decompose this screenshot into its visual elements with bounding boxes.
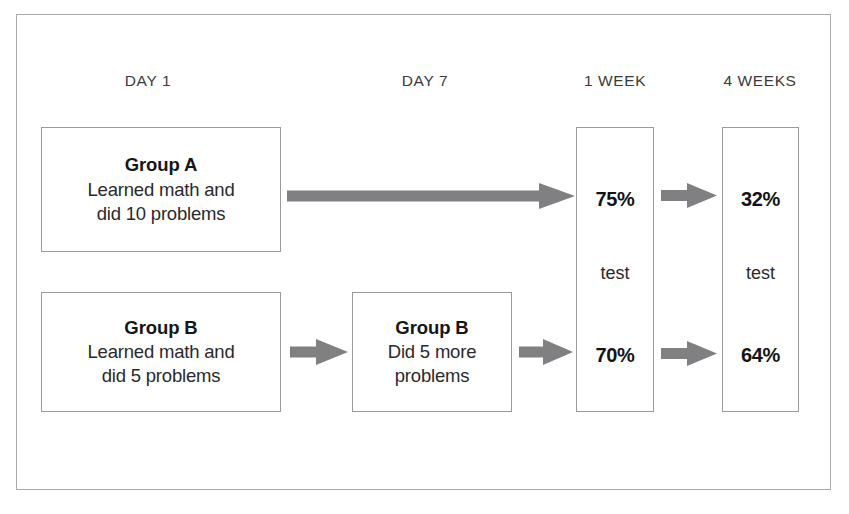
node-group-a-day1: Group A Learned math and did 10 problems (41, 127, 281, 252)
node-group-a-day1-line-2: did 10 problems (97, 202, 226, 226)
node-group-a-day1-title: Group A (125, 153, 198, 177)
test-4-weeks-bottom-value: 64% (723, 344, 798, 367)
test-1-week-label: test (577, 263, 653, 284)
arrow-group-b-day7-to-1week (519, 338, 573, 366)
arrow-group-b-day1-to-day7 (290, 338, 348, 366)
column-header-day-1: DAY 1 (88, 72, 208, 90)
node-group-b-day1-title: Group B (124, 316, 197, 340)
node-group-b-day7-title: Group B (395, 316, 468, 340)
test-1-week-top-value: 75% (577, 188, 653, 211)
node-group-b-day7-line-2: problems (395, 364, 470, 388)
node-group-b-day1-line-2: did 5 problems (102, 364, 221, 388)
arrow-1week-to-4weeks-top (661, 182, 717, 209)
arrow-1week-to-4weeks-bottom (661, 340, 717, 367)
test-column-4-weeks: 32% test 64% (722, 127, 799, 412)
node-group-b-day7: Group B Did 5 more problems (352, 292, 512, 412)
column-header-4-weeks: 4 WEEKS (700, 72, 820, 90)
test-4-weeks-label: test (723, 263, 798, 284)
node-group-a-day1-line-1: Learned math and (88, 178, 235, 202)
node-group-b-day1: Group B Learned math and did 5 problems (41, 292, 281, 412)
arrow-long-group-a (287, 182, 575, 210)
test-4-weeks-top-value: 32% (723, 188, 798, 211)
column-header-1-week: 1 WEEK (556, 72, 674, 90)
diagram-root: DAY 1 DAY 7 1 WEEK 4 WEEKS Group A Learn… (0, 0, 849, 514)
node-group-b-day7-line-1: Did 5 more (388, 340, 476, 364)
column-header-day-7: DAY 7 (365, 72, 485, 90)
test-1-week-bottom-value: 70% (577, 344, 653, 367)
test-column-1-week: 75% test 70% (576, 127, 654, 412)
node-group-b-day1-line-1: Learned math and (88, 340, 235, 364)
